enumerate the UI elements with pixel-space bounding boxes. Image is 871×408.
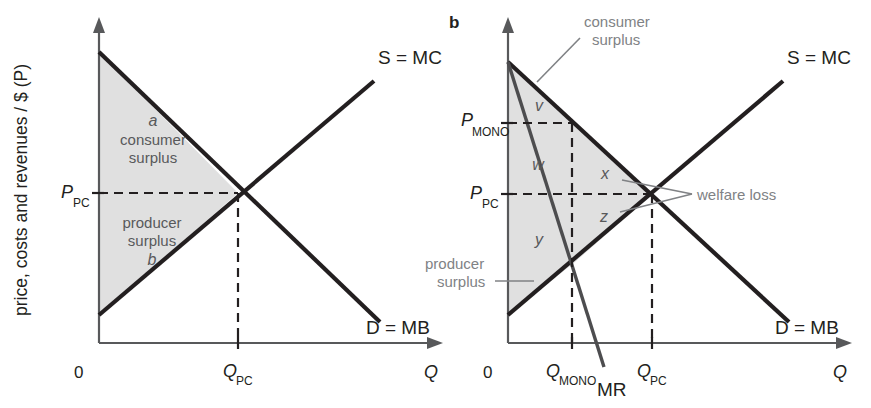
panel-b-welfare-loss-text: welfare loss — [696, 186, 776, 203]
panel-b-mono-price-subscript: MONO — [472, 125, 509, 139]
panel-a-region-b-line1: producer — [122, 214, 181, 231]
panel-b-surplus-area — [508, 62, 652, 315]
panel-b-x-axis-label: Q — [833, 362, 847, 382]
panel-a-quantity-subscript: PC — [236, 374, 253, 388]
panel-a-region-b-letter: b — [148, 251, 157, 268]
economics-surplus-diagram: price, costs and revenues / $ (P) S = MC… — [0, 0, 871, 408]
panel-b-region-y-letter: y — [534, 231, 544, 248]
panel-a-price-subscript: PC — [73, 196, 90, 210]
panel-b-y-axis-arrow — [502, 17, 514, 33]
panel-b-pc-price-axis-label: P PC — [470, 183, 499, 211]
panel-b-origin-label: 0 — [483, 363, 492, 382]
panel-a-price-symbol: P — [61, 182, 73, 202]
panel-a-x-axis-arrow — [427, 337, 443, 349]
y-axis-title: price, costs and revenues / $ (P) — [11, 64, 31, 316]
panel-b-pc-price-subscript: PC — [482, 197, 499, 211]
panel-b-consumer-surplus-leader — [537, 38, 580, 82]
panel-a-x-axis-label: Q — [424, 362, 438, 382]
panel-b-mono-quantity-axis-label: Q MONO — [546, 361, 596, 388]
panel-a-region-a-line2: surplus — [129, 149, 177, 166]
panel-b-pc-quantity-subscript: PC — [650, 374, 667, 388]
panel-a-origin-label: 0 — [74, 363, 83, 382]
panel-b-mono-price-axis-label: P MONO — [461, 110, 509, 139]
panel-b-mono-quantity-subscript: MONO — [559, 374, 596, 388]
figure-root: price, costs and revenues / $ (P) S = MC… — [0, 0, 871, 408]
panel-b-pc-quantity-axis-label: Q PC — [637, 361, 667, 388]
panel-a-quantity-symbol: Q — [223, 361, 237, 381]
panel-a-quantity-axis-label: Q PC — [223, 361, 253, 388]
panel-b-pc-quantity-symbol: Q — [637, 361, 651, 381]
panel-b-consumer-surplus-annotation: consumer surplus — [537, 13, 650, 82]
panel-a-region-a-line1: consumer — [120, 131, 186, 148]
panel-b-letter: b — [449, 13, 459, 32]
panel-b-region-x-letter: x — [600, 165, 610, 182]
panel-a: S = MC D = MB P PC Q PC 0 Q a consumer s… — [61, 17, 443, 388]
panel-b-mono-quantity-symbol: Q — [546, 361, 560, 381]
panel-b-region-w-letter: w — [532, 156, 545, 173]
panel-b-mr-label: MR — [597, 379, 627, 400]
panel-b-x-axis-arrow — [836, 337, 852, 349]
panel-a-region-a-letter: a — [149, 112, 158, 129]
panel-b-producer-surplus-line1: producer — [425, 255, 484, 272]
panel-a-supply-label: S = MC — [378, 47, 442, 68]
panel-b-demand-label: D = MB — [775, 317, 839, 338]
panel-b-consumer-surplus-line1: consumer — [584, 13, 650, 30]
panel-a-y-axis-arrow — [93, 17, 105, 33]
panel-b-pc-price-symbol: P — [470, 183, 482, 203]
y-axis-title-text: price, costs and revenues / $ (P) — [11, 64, 31, 316]
panel-b: b S = MC D = MB MR P MONO — [425, 13, 852, 400]
panel-a-region-b-line2: surplus — [128, 232, 176, 249]
panel-b-supply-label: S = MC — [787, 47, 851, 68]
panel-b-consumer-surplus-line2: surplus — [592, 31, 640, 48]
panel-b-region-z-letter: z — [599, 208, 608, 225]
panel-b-region-v-letter: v — [535, 97, 544, 114]
panel-a-demand-label: D = MB — [366, 317, 430, 338]
panel-b-producer-surplus-line2: surplus — [437, 273, 485, 290]
panel-a-price-axis-label: P PC — [61, 182, 90, 210]
